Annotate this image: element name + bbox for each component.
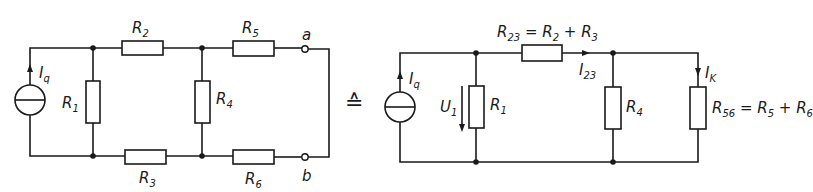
- node: [610, 159, 616, 165]
- wire: [30, 115, 125, 156]
- resistor-r4: [605, 87, 621, 129]
- label-iq: Iq: [39, 64, 50, 84]
- resistor-r1: [86, 81, 100, 123]
- label-i23: I23: [579, 61, 596, 81]
- label-r56: R56 = R5 + R6: [712, 99, 813, 119]
- equivalence-symbol: ≙: [345, 90, 363, 115]
- resistor-r23: [522, 45, 562, 61]
- node: [199, 45, 205, 51]
- label-b: b: [302, 167, 312, 185]
- arrow-up-icon: [27, 64, 33, 72]
- resistor-r56: [690, 87, 706, 129]
- label-r4: R4: [626, 98, 643, 118]
- label-r1: R1: [62, 94, 79, 114]
- label-u1: U1: [440, 98, 457, 118]
- label-a: a: [302, 26, 311, 44]
- resistor-r2: [122, 41, 163, 55]
- label-r1: R1: [490, 96, 507, 116]
- left-circuit: Iq R1 R2 R3 R4 R5 R6 a b: [15, 19, 329, 190]
- node: [473, 50, 479, 56]
- label-r23: R23 = R2 + R3: [497, 23, 598, 43]
- terminal-b: [302, 154, 308, 160]
- node: [610, 50, 616, 56]
- arrow-down-icon: [459, 124, 465, 132]
- label-r5: R5: [242, 19, 259, 39]
- node: [199, 153, 205, 159]
- node: [90, 153, 96, 159]
- label-r3: R3: [139, 169, 156, 189]
- wire: [308, 49, 329, 157]
- label-ik: IK: [705, 64, 717, 84]
- node: [473, 159, 479, 165]
- resistor-r3: [125, 150, 166, 164]
- resistor-r4: [195, 81, 210, 123]
- resistor-r5: [233, 41, 274, 56]
- wire: [400, 122, 698, 162]
- node: [90, 45, 96, 51]
- resistor-r1: [469, 86, 484, 128]
- label-r6: R6: [245, 170, 262, 190]
- resistor-r6: [233, 150, 274, 164]
- right-circuit: Iq U1 R1 R23 = R2 + R3 I23 R4 IK R56 = R…: [385, 23, 813, 165]
- arrow-right-icon: [582, 50, 590, 56]
- label-r4: R4: [216, 90, 233, 110]
- label-iq: Iq: [409, 70, 420, 90]
- arrow-down-icon: [695, 68, 701, 76]
- label-r2: R2: [132, 19, 149, 39]
- circuit-diagram: Iq R1 R2 R3 R4 R5 R6 a b ≙: [0, 0, 813, 192]
- arrow-up-icon: [397, 71, 403, 79]
- terminal-a: [302, 46, 308, 52]
